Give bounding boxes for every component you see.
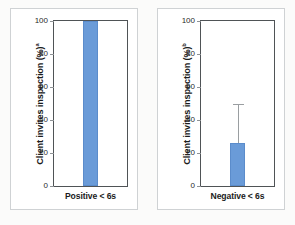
- chart-panel-b: Client invites inspection (%)b 020406080…: [157, 8, 285, 210]
- y-tick-label: 20: [39, 147, 48, 159]
- y-tick-label: 80: [39, 48, 48, 60]
- figure-container: Client invites inspection (%)a 020406080…: [0, 0, 295, 225]
- x-axis-label-b: Negative < 6s: [200, 191, 275, 201]
- y-tick-mark: [197, 21, 201, 22]
- y-tick-label: 40: [39, 114, 48, 126]
- error-bar-line: [238, 104, 239, 144]
- error-bar-cap: [233, 104, 244, 105]
- y-tick-mark: [50, 21, 54, 22]
- y-axis-title-b: Client invites inspection (%)b: [177, 19, 191, 189]
- y-tick-mark: [197, 87, 201, 88]
- y-tick-label: 100: [182, 15, 195, 27]
- plot-area-a: 020406080100: [53, 20, 128, 187]
- x-axis-label-a: Positive < 6s: [53, 191, 128, 201]
- plot-area-b: 020406080100: [200, 20, 275, 187]
- bar: [83, 21, 98, 186]
- y-tick-mark: [50, 120, 54, 121]
- y-tick-label: 60: [39, 81, 48, 93]
- y-tick-mark: [197, 153, 201, 154]
- panel-letter-a: a: [34, 43, 40, 46]
- y-tick-mark: [197, 186, 201, 187]
- y-tick-label: 20: [186, 147, 195, 159]
- chart-panel-a: Client invites inspection (%)a 020406080…: [10, 8, 138, 210]
- y-tick-label: 80: [186, 48, 195, 60]
- y-tick-mark: [197, 54, 201, 55]
- y-tick-label: 0: [191, 180, 195, 192]
- panel-letter-b: b: [181, 43, 187, 46]
- y-tick-mark: [50, 153, 54, 154]
- y-tick-label: 40: [186, 114, 195, 126]
- y-axis-title-a: Client invites inspection (%)a: [30, 19, 44, 189]
- y-tick-mark: [197, 120, 201, 121]
- bar: [230, 143, 245, 186]
- y-tick-label: 60: [186, 81, 195, 93]
- y-tick-mark: [50, 54, 54, 55]
- y-tick-mark: [50, 186, 54, 187]
- y-tick-mark: [50, 87, 54, 88]
- y-tick-label: 100: [35, 15, 48, 27]
- y-tick-label: 0: [44, 180, 48, 192]
